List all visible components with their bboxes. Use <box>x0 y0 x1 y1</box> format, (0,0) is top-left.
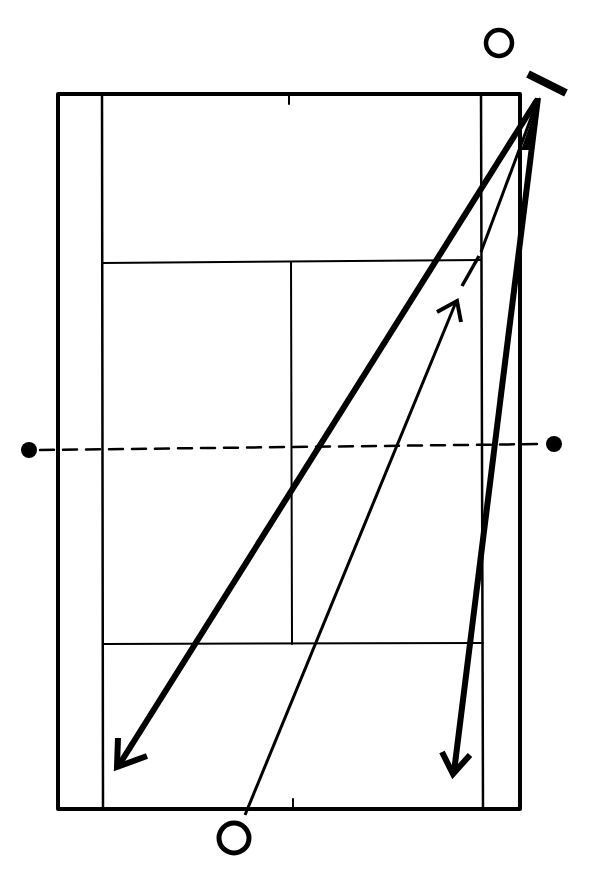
player-top-icon <box>486 30 512 56</box>
downline-shot-arrow <box>442 98 538 774</box>
court-outer-boundary <box>58 94 520 809</box>
tennis-court-diagram <box>0 0 591 873</box>
player-bottom-icon <box>219 823 249 853</box>
net-post-left <box>21 442 37 458</box>
singles-sideline-left <box>102 94 103 809</box>
court-svg <box>0 0 591 873</box>
singles-sideline-right <box>481 94 483 809</box>
net-post-right <box>546 436 562 452</box>
service-line-bottom <box>103 643 483 644</box>
racket-icon <box>528 74 566 93</box>
crosscourt-shot-arrow <box>117 100 537 767</box>
center-service-line <box>291 262 292 644</box>
